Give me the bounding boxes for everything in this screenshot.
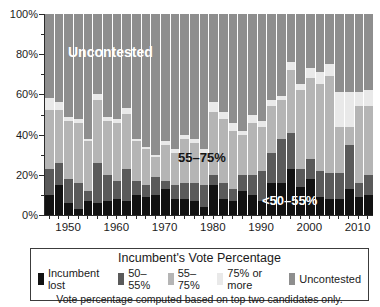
segment (325, 14, 334, 64)
x-tick (348, 215, 349, 219)
segment (325, 76, 334, 172)
segment (45, 98, 54, 110)
segment (84, 201, 93, 215)
segment (229, 14, 238, 123)
x-tick (213, 215, 214, 219)
segment (113, 123, 122, 181)
segment (74, 183, 83, 209)
segment (229, 189, 238, 201)
segment (316, 72, 325, 84)
legend-item-label: 75% or more (227, 267, 289, 291)
segment (364, 175, 373, 195)
segment (335, 127, 344, 173)
segment (209, 14, 218, 102)
y-tick (41, 155, 44, 156)
segment (103, 201, 112, 215)
segment (355, 183, 364, 197)
bar-1976 (190, 14, 199, 215)
segment (122, 14, 131, 108)
segment (287, 70, 296, 132)
segment (103, 121, 112, 175)
bar-1972 (171, 14, 180, 215)
segment (161, 145, 170, 181)
segment (84, 141, 93, 191)
legend-swatch (289, 273, 295, 285)
x-axis-label: 1960 (104, 221, 130, 233)
x-tick (68, 215, 69, 219)
segment (248, 14, 257, 115)
x-axis-label: 1990 (248, 221, 274, 233)
segment (345, 14, 354, 92)
x-tick (261, 215, 262, 219)
segment (55, 14, 64, 102)
bar-2010 (355, 14, 364, 215)
segment (103, 14, 112, 117)
segment (180, 183, 189, 199)
x-tick (97, 215, 98, 219)
bar-2000 (306, 14, 315, 215)
segment (345, 145, 354, 189)
bar-1970 (161, 14, 170, 215)
x-tick (107, 215, 108, 219)
segment (190, 14, 199, 139)
segment (209, 185, 218, 215)
segment (306, 159, 315, 179)
legend-item: 55–75% (168, 267, 218, 291)
x-tick (126, 215, 127, 219)
segment (267, 14, 276, 100)
x-axis-label: 1950 (55, 221, 81, 233)
segment (64, 203, 73, 215)
segment (45, 195, 54, 215)
segment (151, 177, 160, 195)
segment (113, 14, 122, 119)
segment (325, 199, 334, 215)
segment (132, 181, 141, 195)
segment (296, 90, 305, 168)
segment (355, 14, 364, 92)
segment (161, 181, 170, 189)
segment (93, 203, 102, 215)
x-tick (300, 215, 301, 219)
segment (238, 135, 247, 175)
segment (122, 201, 131, 215)
y-axis-label: 20% (0, 169, 38, 181)
legend-swatch (118, 273, 124, 285)
x-tick (338, 215, 339, 219)
segment (219, 183, 228, 199)
bar-2012 (364, 14, 373, 215)
segment (200, 185, 209, 207)
segment (277, 139, 286, 183)
legend-item: 50–55% (118, 267, 168, 291)
bar-1974 (180, 14, 189, 215)
annotation: Uncontested (68, 44, 153, 60)
bar-1978 (200, 14, 209, 215)
bar-1948 (55, 14, 64, 215)
segment (55, 102, 64, 110)
segment (316, 84, 325, 170)
segment (364, 106, 373, 174)
segment (325, 64, 334, 76)
legend-item-label: Incumbent lost (48, 267, 118, 291)
bar-2002 (316, 14, 325, 215)
segment (345, 92, 354, 126)
segment (132, 195, 141, 215)
x-tick (49, 215, 50, 219)
x-tick (232, 215, 233, 219)
segment (64, 121, 73, 179)
segment (142, 197, 151, 215)
plot-area: Uncontested55–75%<50–55% (44, 14, 373, 216)
segment (142, 14, 151, 147)
bar-1946 (45, 14, 54, 215)
segment (84, 14, 93, 139)
x-tick (174, 215, 175, 219)
segment (248, 195, 257, 215)
segment (238, 191, 247, 215)
segment (355, 92, 364, 106)
x-tick (271, 215, 272, 219)
y-tick (41, 115, 44, 116)
x-tick (145, 215, 146, 219)
segment (306, 68, 315, 78)
x-axis-label: 2000 (296, 221, 322, 233)
bar-2008 (345, 14, 354, 215)
segment (74, 123, 83, 183)
